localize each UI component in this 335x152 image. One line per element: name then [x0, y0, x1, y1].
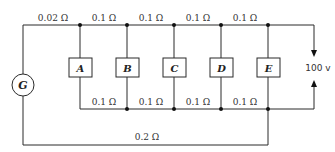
top-arrow-head [311, 50, 317, 57]
bottom-resistance-label: 0.1 Ω [233, 97, 258, 107]
junction-bottom-d [219, 107, 223, 111]
load-c: C [163, 58, 186, 77]
load-label: C [171, 63, 179, 74]
bottom-resistance-label: 0.1 Ω [186, 97, 211, 107]
junction-top-d [219, 23, 223, 27]
load-e: E [257, 58, 280, 77]
load-label: E [264, 63, 273, 74]
top-resistance-label: 0.02 Ω [38, 13, 68, 23]
bottom-arrow-head [311, 80, 317, 87]
generator-label: G [18, 79, 27, 92]
junction-top-c [172, 23, 176, 27]
bottom-resistance-label: 0.1 Ω [139, 97, 164, 107]
bottom-resistance-label: 0.1 Ω [92, 97, 117, 107]
load-label: D [216, 63, 226, 74]
load-d: D [210, 58, 233, 77]
top-resistance-label: 0.1 Ω [233, 13, 258, 23]
top-resistance-label: 0.1 Ω [139, 13, 164, 23]
junction-top-a [78, 23, 82, 27]
load-label: B [122, 63, 131, 74]
junction-top-e [266, 23, 270, 27]
top-resistance-label: 0.1 Ω [186, 13, 211, 23]
supply-voltage-label: 100 v [305, 63, 331, 73]
junction-bottom-b [125, 107, 129, 111]
junction-bottom-e [266, 107, 270, 111]
top-resistance-label: 0.1 Ω [92, 13, 117, 23]
junction-bottom-c [172, 107, 176, 111]
circuit-diagram: G A B C D E 0.02 Ω 0.1 Ω [0, 0, 335, 152]
load-b: B [116, 58, 139, 77]
return-resistance-label: 0.2 Ω [135, 132, 160, 142]
load-label: A [76, 63, 85, 74]
junction-top-b [125, 23, 129, 27]
load-a: A [69, 58, 92, 77]
